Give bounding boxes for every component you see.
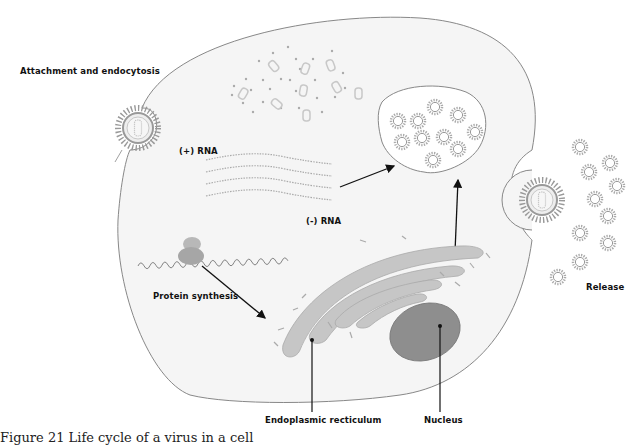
- attachment-virus: [118, 108, 158, 148]
- budding-virus: [502, 170, 562, 230]
- label-minus-rna: (-) RNA: [306, 216, 341, 226]
- label-er: Endoplasmic recticulum: [265, 415, 381, 425]
- leader-attachment: [115, 150, 122, 162]
- label-attachment: Attachment and endocytosis: [20, 66, 160, 76]
- label-plus-rna: (+) RNA: [179, 146, 218, 156]
- label-protein-synthesis: Protein synthesis: [153, 291, 238, 301]
- label-release: Release: [586, 282, 624, 292]
- figure-caption: Figure 21 Life cycle of a virus in a cel…: [0, 430, 253, 445]
- cell: [118, 17, 535, 402]
- released-viruses: [551, 140, 624, 284]
- label-nucleus: Nucleus: [424, 415, 463, 425]
